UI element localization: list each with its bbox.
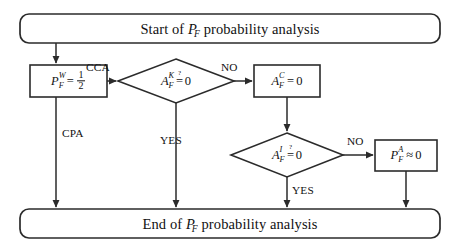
afk-sup: K [169, 71, 175, 79]
afi-query-equals: ?= [287, 149, 294, 162]
afk-query-equals: ?= [176, 75, 183, 88]
afk-value: 0 [185, 74, 191, 88]
end-terminal-label: End of PF probability analysis [143, 217, 318, 232]
pfw-fraction: 12 [77, 70, 85, 91]
end-terminal-prefix: End of [143, 216, 183, 232]
cpa-label: CPA [62, 128, 84, 139]
afi-decision-label: AIF?=0 [272, 149, 302, 162]
yes-label-1: YES [160, 135, 182, 146]
pfa-sup: A [398, 145, 403, 153]
afc-supsub: CF [279, 77, 285, 85]
afc-node-label: ACF=0 [271, 75, 302, 88]
afc-sup: C [279, 71, 285, 79]
pfw-operator: = [67, 74, 74, 88]
pfw-supsub: WF [59, 77, 65, 85]
flowchart-figure: Start of PF probability analysis End of … [0, 0, 454, 252]
pfa-node-label: PAF≈0 [390, 149, 421, 162]
start-terminal-var-sub: F [194, 27, 200, 38]
cca-label: CCA [86, 62, 110, 73]
flowchart-canvas [0, 0, 454, 252]
start-terminal-prefix: Start of [140, 21, 184, 37]
afk-sub: F [169, 81, 174, 89]
afc-value: 0 [296, 74, 302, 88]
afi-value: 0 [296, 148, 302, 162]
pfw-denominator: 2 [77, 82, 85, 92]
afi-supsub: IF [280, 151, 286, 159]
pfa-var: P [390, 148, 398, 162]
start-terminal-label: Start of PF probability analysis [140, 22, 319, 37]
end-terminal-var-sub: F [192, 222, 198, 233]
pfw-sup: W [59, 72, 66, 80]
afi-sub: F [280, 155, 285, 163]
pfw-node-label: PWF=12 [51, 70, 85, 91]
afc-sub: F [279, 81, 284, 89]
pfw-var: P [51, 74, 59, 88]
afk-query-mark: ? [178, 69, 181, 76]
afk-decision-label: AKF?=0 [161, 75, 191, 88]
yes-label-2: YES [292, 185, 314, 196]
afk-supsub: KF [169, 77, 175, 85]
no-label-1: NO [221, 62, 238, 73]
pfa-supsub: AF [398, 151, 404, 159]
afk-var: A [161, 74, 169, 88]
pfw-sub: F [59, 82, 64, 90]
end-terminal-suffix: probability analysis [202, 216, 318, 232]
afc-var: A [271, 74, 279, 88]
pfa-operator: ≈ [406, 148, 413, 162]
afi-var: A [272, 148, 280, 162]
start-terminal-suffix: probability analysis [204, 21, 320, 37]
afi-sup: I [280, 145, 283, 153]
afi-query-mark: ? [289, 143, 292, 150]
no-label-2: NO [347, 136, 364, 147]
afc-operator: = [287, 74, 294, 88]
pfa-value: 0 [415, 148, 421, 162]
pfa-sub: F [398, 155, 403, 163]
